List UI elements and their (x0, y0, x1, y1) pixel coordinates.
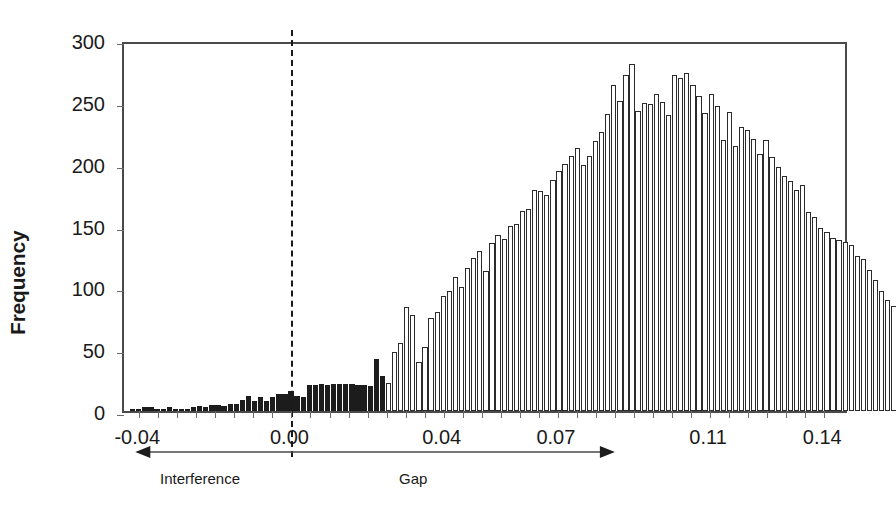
histogram-bar (660, 102, 665, 411)
histogram-bar (684, 73, 689, 411)
histogram-bar (307, 385, 312, 411)
x-tick-mark (406, 411, 407, 418)
histogram-bar (824, 232, 829, 411)
y-tick-mark (117, 230, 124, 231)
histogram-bar (867, 270, 872, 411)
histogram-bar (130, 409, 135, 411)
x-tick-mark (196, 411, 197, 418)
x-tick-mark (596, 411, 597, 418)
histogram-bar (769, 157, 774, 411)
histogram-bar (635, 111, 640, 412)
histogram-bar (264, 401, 269, 411)
histogram-bar (209, 405, 214, 411)
x-tick-mark (139, 411, 140, 418)
y-tick-mark (117, 168, 124, 169)
x-tick-label: 0.04 (422, 427, 461, 447)
x-tick-mark (577, 411, 578, 418)
histogram-bar (234, 404, 239, 411)
x-tick-mark (805, 411, 806, 418)
x-tick-mark (158, 411, 159, 418)
histogram-bar (404, 307, 409, 411)
histogram-bar (142, 407, 147, 411)
y-tick-mark (117, 415, 124, 416)
x-tick-mark (653, 411, 654, 418)
x-tick-mark (253, 411, 254, 418)
histogram-bar (167, 407, 172, 411)
bar-series-container (124, 44, 845, 411)
histogram-bar (879, 291, 884, 411)
histogram-bar (179, 409, 184, 411)
histogram-bar (587, 156, 592, 411)
histogram-bar (471, 258, 476, 411)
histogram-bar (739, 127, 744, 411)
histogram-bar (605, 114, 610, 411)
histogram-bar (343, 384, 348, 411)
x-tick-label: 0.00 (270, 427, 309, 447)
x-tick-mark (234, 411, 235, 418)
x-tick-mark (672, 411, 673, 418)
y-tick-mark (117, 106, 124, 107)
y-tick-label: 300 (45, 32, 105, 52)
y-tick-mark (117, 291, 124, 292)
x-tick-mark (215, 411, 216, 418)
histogram-bar (843, 242, 848, 411)
histogram-bar (715, 106, 720, 411)
histogram-bar (806, 212, 811, 411)
histogram-bar (325, 385, 330, 411)
histogram-bar (885, 300, 890, 411)
histogram-bar (836, 240, 841, 411)
x-tick-mark (748, 411, 749, 418)
x-tick-mark (463, 411, 464, 418)
x-tick-mark (444, 411, 445, 418)
histogram-bar (270, 397, 275, 411)
x-tick-mark (520, 411, 521, 418)
histogram-bar (794, 190, 799, 411)
histogram-bar (830, 238, 835, 411)
histogram-bar (428, 318, 433, 411)
histogram-bar (538, 191, 543, 411)
x-tick-mark (767, 411, 768, 418)
histogram-bar (416, 362, 421, 411)
histogram-bar (508, 226, 513, 412)
histogram-bar (593, 141, 598, 411)
histogram-bar (386, 383, 391, 411)
histogram-bar (221, 406, 226, 411)
histogram-bar (818, 228, 823, 411)
histogram-bar (368, 386, 373, 411)
y-axis-tick-labels: 050100150200250300 (45, 0, 105, 508)
x-tick-label: 0.11 (689, 427, 726, 447)
histogram-bar (161, 409, 166, 411)
histogram-bar (349, 384, 354, 411)
x-tick-mark (330, 411, 331, 418)
x-tick-mark (387, 411, 388, 418)
histogram-bar (514, 224, 519, 411)
histogram-bar (891, 306, 896, 411)
histogram-bar (392, 352, 397, 411)
histogram-bar (849, 245, 854, 411)
histogram-bar (422, 347, 427, 411)
histogram-bar (727, 112, 732, 411)
x-tick-mark (634, 411, 635, 418)
histogram-bar (441, 296, 446, 411)
histogram-bar (733, 146, 738, 411)
histogram-bar (374, 359, 379, 411)
y-tick-mark (117, 353, 124, 354)
histogram-bar (337, 384, 342, 411)
histogram-bar (355, 385, 360, 411)
x-tick-mark (786, 411, 787, 418)
histogram-bar (800, 185, 805, 411)
x-tick-mark (824, 411, 825, 418)
histogram-bar (301, 397, 306, 411)
histogram-bar (757, 154, 762, 411)
histogram-bar (502, 239, 507, 411)
histogram-bar (185, 409, 190, 411)
histogram-bar (690, 85, 695, 411)
histogram-bar (319, 384, 324, 411)
histogram-bar (435, 312, 440, 411)
x-tick-mark (368, 411, 369, 418)
zero-reference-line (291, 30, 293, 457)
histogram-bar (788, 181, 793, 411)
x-tick-label: 0.14 (803, 427, 842, 447)
histogram-bar (873, 280, 878, 411)
annotation-label: Interference (160, 470, 240, 487)
